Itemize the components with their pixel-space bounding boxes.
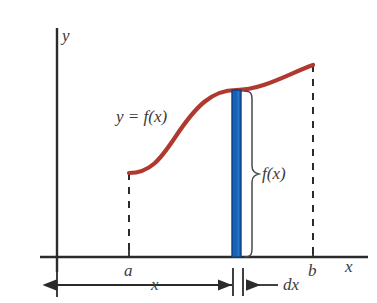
dx-width-label: dx — [283, 276, 299, 293]
height-brace — [244, 91, 259, 257]
curve-equation-label: y = f(x) — [116, 108, 167, 125]
representative-rectangle-strip — [232, 90, 241, 257]
strip-height-label: f(x) — [262, 165, 286, 182]
upper-limit-label-b: b — [308, 262, 317, 279]
area-under-curve-figure: y x y = f(x) f(x) a b x dx — [0, 0, 377, 303]
figure-canvas — [0, 0, 377, 303]
y-axis-label: y — [62, 27, 70, 44]
lower-limit-label-a: a — [124, 262, 133, 279]
x-dimension-label: x — [151, 276, 159, 293]
x-axis-label: x — [345, 258, 353, 275]
